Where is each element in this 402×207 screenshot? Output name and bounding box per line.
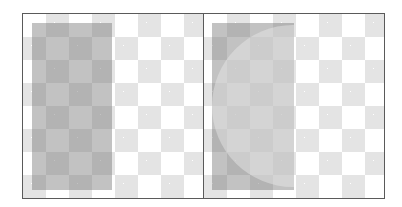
translucent-gray-rectangle — [32, 23, 112, 190]
translucent-gray-rectangle — [212, 23, 294, 190]
left-panel — [23, 14, 203, 198]
circular-lens-region — [212, 25, 294, 187]
right-panel — [204, 14, 384, 198]
figure-frame — [22, 13, 385, 199]
